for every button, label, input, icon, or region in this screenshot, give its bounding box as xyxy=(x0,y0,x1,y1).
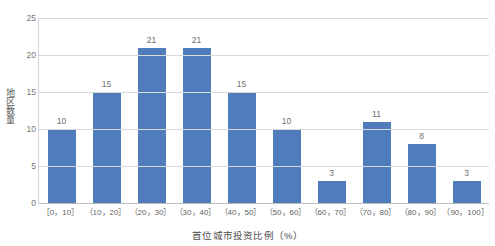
x-axis-tick-labels: ［0，10］（10，20］（20，30］（30，40］（40，50］（50，60… xyxy=(38,206,488,222)
bar-value-label: 10 xyxy=(282,116,291,126)
bars-layer: 10152121151031183 xyxy=(39,18,489,203)
bar[interactable] xyxy=(93,92,121,203)
x-tick-label: （40，50］ xyxy=(220,206,262,217)
bar-value-label: 11 xyxy=(372,109,381,119)
bar-slot: 10 xyxy=(264,18,309,203)
bar[interactable] xyxy=(408,144,436,203)
bar[interactable] xyxy=(318,181,346,203)
bar[interactable] xyxy=(183,48,211,203)
bar-slot: 10 xyxy=(39,18,84,203)
bar-slot: 3 xyxy=(309,18,354,203)
bar-slot: 21 xyxy=(129,18,174,203)
bar-value-label: 21 xyxy=(147,35,156,45)
bar-slot: 21 xyxy=(174,18,219,203)
x-tick-label: （60，70］ xyxy=(310,206,352,217)
bar-value-label: 3 xyxy=(464,168,469,178)
x-tick-label: （80，90］ xyxy=(400,206,442,217)
y-tick-label: 5 xyxy=(14,161,36,171)
x-tick-label: （20，30］ xyxy=(130,206,172,217)
bar-value-label: 21 xyxy=(192,35,201,45)
x-tick-label: （50，60］ xyxy=(265,206,307,217)
bar-slot: 15 xyxy=(219,18,264,203)
bar-value-label: 8 xyxy=(419,131,424,141)
bar[interactable] xyxy=(138,48,166,203)
bar-value-label: 10 xyxy=(57,116,66,126)
x-tick-label: （90，100］ xyxy=(442,206,488,217)
bar[interactable] xyxy=(228,92,256,203)
y-tick-label: 15 xyxy=(14,87,36,97)
x-tick-label: ［0，10］ xyxy=(42,206,79,217)
bar-value-label: 15 xyxy=(237,79,246,89)
bar-slot: 11 xyxy=(354,18,399,203)
y-tick-label: 0 xyxy=(14,198,36,208)
x-axis-title: 首位城市投资比例（%） xyxy=(0,228,495,242)
x-tick-label: （10，20］ xyxy=(85,206,127,217)
gridline xyxy=(39,129,489,130)
bar-slot: 8 xyxy=(399,18,444,203)
bar-slot: 15 xyxy=(84,18,129,203)
bar[interactable] xyxy=(453,181,481,203)
gridline xyxy=(39,55,489,56)
y-axis-tick-labels: 0510152025 xyxy=(14,0,36,246)
x-tick-label: （70，80］ xyxy=(355,206,397,217)
y-tick-label: 20 xyxy=(14,50,36,60)
bar-chart: 地区数量 0510152025 10152121151031183 ［0，10］… xyxy=(0,0,495,246)
y-tick-label: 25 xyxy=(14,13,36,23)
y-tick-label: 10 xyxy=(14,124,36,134)
plot-area: 10152121151031183 xyxy=(38,18,488,203)
bar-value-label: 3 xyxy=(329,168,334,178)
x-axis-line xyxy=(39,203,489,204)
gridline xyxy=(39,166,489,167)
x-tick-label: （30，40］ xyxy=(175,206,217,217)
bar-slot: 3 xyxy=(444,18,489,203)
gridline xyxy=(39,18,489,19)
bar-value-label: 15 xyxy=(102,79,111,89)
gridline xyxy=(39,92,489,93)
bar[interactable] xyxy=(363,122,391,203)
